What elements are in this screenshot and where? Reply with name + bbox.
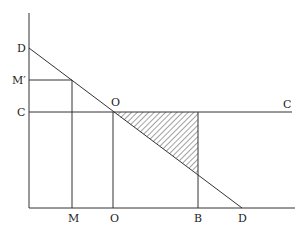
demand-line-dd — [29, 48, 242, 208]
label-o-top: O — [111, 96, 120, 109]
label-b-bottom: B — [194, 212, 202, 225]
label-c-left: C — [17, 106, 25, 119]
label-m-prime: M′ — [12, 74, 26, 87]
label-o-bottom: O — [110, 212, 119, 225]
label-m-bottom: M — [68, 212, 79, 225]
label-d-top: D — [17, 42, 26, 55]
label-d-bottom: D — [238, 212, 247, 225]
diagram-canvas: D M′ C O C M O B D — [0, 0, 307, 231]
label-c-right: C — [283, 98, 291, 111]
